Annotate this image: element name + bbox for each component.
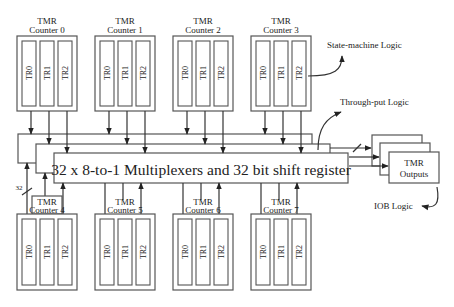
counter-name: Counter 2 xyxy=(185,25,221,35)
register-label: TR2 xyxy=(295,66,304,80)
register-label: TR1 xyxy=(121,66,130,80)
counter-name: Counter 1 xyxy=(107,25,143,35)
tmr-outputs-line2: Outputs xyxy=(400,169,429,179)
register-label: TR1 xyxy=(121,245,130,259)
throughput-logic-label: Through-put Logic xyxy=(340,97,409,107)
register-label: TR0 xyxy=(259,245,268,259)
counter-top-3: TMR Counter 3 TR0 TR1 TR2 xyxy=(251,16,311,111)
counter-top-1: TMR Counter 1 TR0 TR1 TR2 xyxy=(95,16,155,111)
register-label: TR0 xyxy=(25,66,34,80)
mux-label: 32 x 8-to-1 Multiplexers and 32 bit shif… xyxy=(51,161,351,178)
register-label: TR2 xyxy=(217,66,226,80)
tmr-outputs-line1: TMR xyxy=(404,158,424,168)
register-label: TR1 xyxy=(199,245,208,259)
counter-top-2: TMR Counter 2 TR0 TR1 TR2 xyxy=(173,16,233,111)
register-label: TR0 xyxy=(25,245,34,259)
register-label: TR2 xyxy=(61,245,70,259)
register-label: TR2 xyxy=(61,66,70,80)
register-label: TR1 xyxy=(43,245,52,259)
counter-bottom-5: TMR Counter 5 TR0 TR1 TR2 xyxy=(95,197,155,290)
counter-bottom-7: TMR Counter 7 TR0 TR1 TR2 xyxy=(251,197,311,290)
iob-logic-label: IOB Logic xyxy=(374,201,413,211)
register-label: TR1 xyxy=(43,66,52,80)
state-machine-arrow xyxy=(308,56,342,76)
counter-name: Counter 0 xyxy=(29,25,65,35)
tmr-counter-architecture-diagram: TMR Counter 0 TR0 TR1 TR2 TMR Counter 1 … xyxy=(0,0,454,307)
register-label: TR2 xyxy=(295,245,304,259)
counter-name: Counter 3 xyxy=(263,25,299,35)
iob-arrow xyxy=(422,187,438,207)
state-machine-logic-label: State-machine Logic xyxy=(327,40,402,50)
register-label: TR1 xyxy=(199,66,208,80)
register-label: TR1 xyxy=(277,245,286,259)
register-label: TR0 xyxy=(181,66,190,80)
register-label: TR2 xyxy=(217,245,226,259)
counter-top-0: TMR Counter 0 TR0 TR1 TR2 xyxy=(17,16,77,111)
register-label: TR0 xyxy=(181,245,190,259)
register-label: TR0 xyxy=(259,66,268,80)
register-label: TR1 xyxy=(277,66,286,80)
counter-bottom-4: TMR Counter 4 TR0 TR1 TR2 xyxy=(17,196,77,290)
counter-bottom-6: TMR Counter 6 TR0 TR1 TR2 xyxy=(173,197,233,290)
register-label: TR2 xyxy=(139,66,148,80)
register-label: TR0 xyxy=(103,66,112,80)
register-label: TR2 xyxy=(139,245,148,259)
register-label: TR0 xyxy=(103,245,112,259)
bus-width-label: 32 xyxy=(16,184,24,192)
